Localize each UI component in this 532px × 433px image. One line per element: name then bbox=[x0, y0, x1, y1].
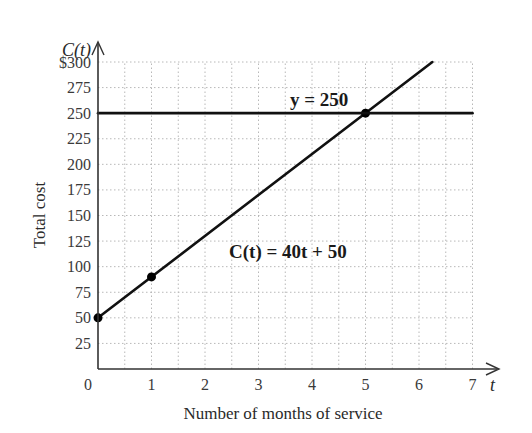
grid bbox=[98, 62, 473, 369]
x-tick-label: 1 bbox=[148, 376, 156, 393]
y-tick-label: 75 bbox=[75, 284, 91, 301]
y-axis-title: Total cost bbox=[30, 182, 49, 249]
tick-labels: 01234567255075100125150175200225250275$3… bbox=[59, 54, 477, 394]
y-tick-label: 275 bbox=[67, 79, 91, 96]
y-tick-label: 150 bbox=[67, 207, 91, 224]
data-point-marker bbox=[147, 272, 156, 281]
y-tick-label: 50 bbox=[75, 309, 91, 326]
y-tick-label: 100 bbox=[67, 258, 91, 275]
x-variable-label: t bbox=[490, 375, 496, 395]
y-tick-label: 175 bbox=[67, 181, 91, 198]
y-tick-label: 250 bbox=[67, 105, 91, 122]
y-tick-label: 25 bbox=[75, 335, 91, 352]
x-tick-label: 5 bbox=[362, 376, 370, 393]
x-tick-label: 4 bbox=[308, 376, 316, 393]
x-axis-title: Number of months of service bbox=[183, 404, 382, 423]
x-tick-label: 2 bbox=[201, 376, 209, 393]
linear-cost-chart: 01234567255075100125150175200225250275$3… bbox=[0, 0, 532, 433]
y-tick-label: 225 bbox=[67, 130, 91, 147]
y-variable-label: C(t) bbox=[62, 40, 91, 61]
plot-series bbox=[94, 62, 473, 322]
annotation-horizontal-line: y = 250 bbox=[290, 89, 348, 110]
y-tick-label: 200 bbox=[67, 156, 91, 173]
x-tick-label: 0 bbox=[84, 376, 92, 393]
annotation-cost-line: C(t) = 40t + 50 bbox=[229, 241, 347, 263]
y-tick-label: 125 bbox=[67, 233, 91, 250]
x-tick-label: 3 bbox=[255, 376, 263, 393]
x-tick-label: 7 bbox=[469, 376, 477, 393]
x-tick-label: 6 bbox=[415, 376, 423, 393]
